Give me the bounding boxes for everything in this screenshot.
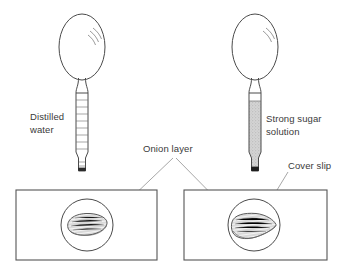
sugar-solution-fill: [248, 101, 262, 173]
bulb-highlight-left: [88, 28, 102, 45]
left-pipette-group: [59, 14, 105, 171]
label-distilled-water-line1: Distilled: [30, 111, 64, 122]
pipette-bulb-right: [232, 14, 278, 80]
label-strong-sugar-line1: Strong sugar: [266, 113, 322, 124]
right-pipette-group: [232, 14, 278, 173]
osmosis-experiment-diagram: Distilled water Strong sugar solution On…: [0, 0, 353, 277]
label-cover-slip: Cover slip: [288, 160, 331, 171]
left-slide-group: [16, 190, 157, 260]
pipette-tip-left: [79, 168, 86, 171]
pipette-tip-right: [252, 167, 259, 171]
pipette-stem-left: [76, 78, 79, 170]
label-distilled-water-line2: water: [29, 124, 54, 135]
pipette-bulb-left: [59, 14, 105, 80]
label-onion-layer: Onion layer: [143, 143, 193, 154]
label-strong-sugar-line2: solution: [266, 126, 300, 137]
right-slide-group: [184, 190, 327, 260]
diagram-canvas: Distilled water Strong sugar solution On…: [0, 0, 353, 277]
bulb-highlight-right: [263, 28, 275, 42]
